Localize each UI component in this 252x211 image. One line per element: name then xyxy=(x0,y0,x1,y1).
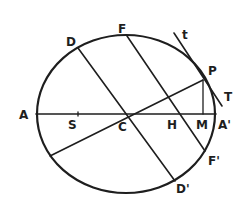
label-H: H xyxy=(167,118,177,132)
label-F: F xyxy=(118,22,126,36)
label-T: T xyxy=(224,90,233,104)
label-D-prime: D' xyxy=(176,182,190,196)
label-P: P xyxy=(208,64,217,78)
label-F-prime: F' xyxy=(208,154,220,168)
label-t: t xyxy=(182,28,188,42)
label-A: A xyxy=(19,108,29,122)
label-C: C xyxy=(118,120,127,134)
label-D: D xyxy=(66,35,76,49)
label-M: M xyxy=(196,118,208,132)
label-A-prime: A' xyxy=(218,118,231,132)
label-S: S xyxy=(68,118,77,132)
ellipse-diagram: A S C H M A' D F P t T F' D' xyxy=(0,0,252,211)
chord-FF-prime xyxy=(127,36,205,151)
